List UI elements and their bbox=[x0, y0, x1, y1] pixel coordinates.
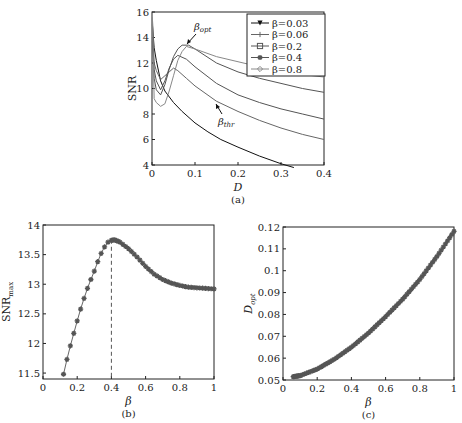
y-tick-label: 16 bbox=[136, 7, 149, 18]
series-snrmax bbox=[61, 237, 217, 377]
x-tick-label: 0.8 bbox=[412, 383, 428, 394]
y-tick-label: 0.08 bbox=[258, 309, 280, 320]
subfigure-caption: (b) bbox=[121, 408, 135, 419]
x-tick-label: 0.8 bbox=[172, 382, 188, 393]
x-tick-label: 0 bbox=[280, 383, 286, 394]
x-tick-label: 0.4 bbox=[103, 382, 119, 393]
x-axis-label: β bbox=[364, 396, 371, 409]
y-tick-label: 12.5 bbox=[18, 308, 40, 319]
annotation-beta-thr: βthr bbox=[217, 116, 235, 129]
subfigure-caption: (c) bbox=[362, 409, 376, 420]
y-tick-label: 6 bbox=[143, 134, 149, 145]
legend-entry: β=0.4 bbox=[272, 52, 302, 63]
y-tick-label: 0.06 bbox=[258, 353, 280, 364]
y-tick-label: 0.05 bbox=[258, 375, 280, 386]
plot-frame bbox=[283, 227, 454, 380]
x-tick-label: 1 bbox=[451, 383, 457, 394]
y-tick-label: 12 bbox=[27, 338, 40, 349]
y-axis-label: Dopt bbox=[242, 293, 257, 315]
x-tick-label: 0.6 bbox=[138, 382, 154, 393]
y-tick-label: 14 bbox=[136, 32, 149, 43]
annotation-beta-opt: βopt bbox=[193, 21, 211, 34]
x-tick-label: 1 bbox=[211, 382, 217, 393]
y-tick-label: 0.1 bbox=[264, 265, 280, 276]
x-tick-label: 0.3 bbox=[273, 168, 289, 179]
x-tick-label: 0 bbox=[40, 382, 46, 393]
legend-entry: β=0.06 bbox=[272, 29, 308, 40]
y-axis-label: SNRmax bbox=[0, 282, 15, 322]
y-tick-label: 14 bbox=[27, 220, 40, 231]
x-tick-label: 0.4 bbox=[316, 168, 332, 179]
y-tick-label: 13.5 bbox=[18, 249, 40, 260]
x-tick-label: 0.6 bbox=[378, 383, 394, 394]
y-tick-label: 0.07 bbox=[258, 331, 280, 342]
y-tick-label: 12 bbox=[136, 58, 149, 69]
legend-entry: β=0.2 bbox=[272, 41, 302, 52]
legend-entry: β=0.03 bbox=[272, 18, 308, 29]
y-tick-label: 0.12 bbox=[258, 222, 280, 233]
y-tick-label: 0.11 bbox=[258, 243, 280, 254]
x-axis-label: D bbox=[233, 181, 243, 194]
y-tick-label: 11.5 bbox=[18, 368, 40, 379]
x-axis-label: β bbox=[124, 395, 131, 408]
chart-b-snrmax-vs-beta: 00.20.40.60.8111.51212.51313.514βSNRmax(… bbox=[0, 220, 217, 420]
legend: β=0.03β=0.06β=0.2β=0.4β=0.8 bbox=[247, 14, 325, 76]
y-axis-label: SNR bbox=[126, 75, 139, 101]
x-tick-label: 0.2 bbox=[69, 382, 85, 393]
chart-c-dopt-vs-beta: 00.20.40.60.810.050.060.070.080.090.10.1… bbox=[242, 222, 457, 421]
x-tick-label: 0.4 bbox=[343, 383, 359, 394]
x-tick-label: 0 bbox=[149, 168, 155, 179]
y-tick-label: 4 bbox=[143, 160, 149, 171]
legend-entry: β=0.8 bbox=[272, 64, 302, 75]
subfigure-caption: (a) bbox=[231, 194, 245, 205]
x-tick-label: 0.2 bbox=[230, 168, 246, 179]
y-tick-label: 8 bbox=[143, 109, 149, 120]
chart-a-snr-vs-d: 00.10.20.30.446810121416DSNR(a)β=0.03β=0… bbox=[126, 7, 332, 206]
x-tick-label: 0.2 bbox=[309, 383, 325, 394]
figure: 00.10.20.30.446810121416DSNR(a)β=0.03β=0… bbox=[0, 0, 462, 423]
series-dopt bbox=[291, 229, 457, 380]
y-tick-label: 13 bbox=[27, 279, 40, 290]
x-tick-label: 0.1 bbox=[187, 168, 203, 179]
y-tick-label: 0.09 bbox=[258, 287, 280, 298]
